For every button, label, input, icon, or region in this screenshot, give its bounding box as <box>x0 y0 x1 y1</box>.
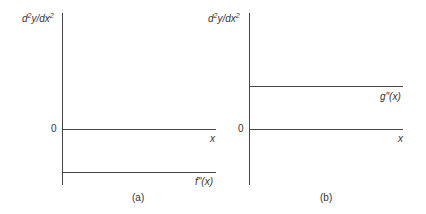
x-axis-a <box>62 129 216 130</box>
caption-b: (b) <box>320 192 332 203</box>
zero-label-b: 0 <box>238 123 244 134</box>
y-axis-label-b: d2y/dx2 <box>208 12 240 24</box>
x-axis-label-a: x <box>210 133 215 144</box>
caption-a: (a) <box>132 192 144 203</box>
y-axis-label-a: d2y/dx2 <box>22 12 54 24</box>
zero-label-a: 0 <box>51 123 57 134</box>
x-axis-b <box>249 129 403 130</box>
curve-g <box>249 86 403 87</box>
curve-f <box>62 172 216 173</box>
y-axis-a <box>62 13 63 185</box>
curve-label-g: g"(x) <box>380 91 401 102</box>
curve-label-f: f"(x) <box>195 176 213 187</box>
x-axis-label-b: x <box>398 133 403 144</box>
y-axis-b <box>249 13 250 185</box>
